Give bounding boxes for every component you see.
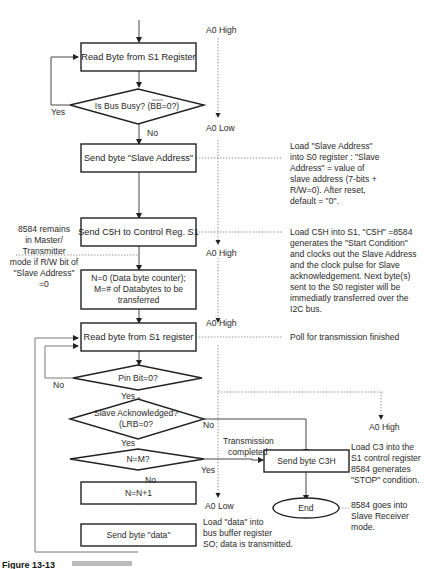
svg-text:Transmitter: Transmitter: [22, 246, 65, 256]
data-note: Load "data" into bus buffer register SO;…: [203, 517, 293, 549]
end-label: End: [298, 503, 314, 513]
branch-label-yes: Yes: [201, 465, 215, 475]
branch-label-no: No: [53, 380, 64, 390]
svg-text:in Master/: in Master/: [25, 235, 63, 245]
svg-text:sent to the S0 register will b: sent to the S0 register will be: [290, 282, 401, 292]
svg-text:Load "Slave Address": Load "Slave Address": [290, 141, 373, 151]
master-transmitter-note: 8584 remains in Master/ Transmitter mode…: [10, 224, 79, 289]
end-note: 8584 goes into Slave Receiver mode.: [351, 500, 409, 532]
decision-label: (LRB=0?: [119, 419, 153, 429]
n-eq-m-yes-line: [204, 459, 263, 460]
branch-label-no: No: [203, 420, 214, 430]
bus-busy-yes-loop: [51, 57, 78, 105]
pin-bit-no-loop: [45, 346, 78, 378]
a0-high-label: A0 High: [206, 248, 237, 258]
figure-caption: Figure 13-13: [2, 560, 55, 569]
n-equals-m-decision: N=M?: [70, 449, 204, 470]
a0-high-label: A0 High: [206, 25, 237, 35]
svg-text:slave address (7-bits +: slave address (7-bits +: [290, 174, 377, 184]
send-slave-address-box: Send byte "Slave Address": [81, 144, 196, 172]
caption-cropped-text: [72, 561, 132, 566]
slave-acknowledged-decision: Slave Acknowledged? (LRB=0?: [70, 399, 204, 439]
svg-text:and clocks out the Slave Addre: and clocks out the Slave Address: [290, 249, 417, 259]
svg-text:bus buffer register: bus buffer register: [203, 528, 272, 538]
svg-text:=0: =0: [39, 279, 49, 289]
svg-text:"Slave Address": "Slave Address": [13, 268, 74, 278]
svg-text:Load "data" into: Load "data" into: [203, 517, 264, 527]
box-label: Send byte "data": [107, 530, 171, 540]
svg-text:acknowledgement. Next byte(s): acknowledgement. Next byte(s): [290, 271, 411, 281]
data-loop-back: [35, 338, 78, 552]
read-s1-register-box-2: Read byte from S1 register: [81, 323, 196, 351]
svg-text:8584 goes into: 8584 goes into: [351, 500, 408, 510]
send-c5h-box: Send C5H to Control Reg. S1: [78, 218, 199, 246]
poll-note: Poll for transmission finished: [290, 332, 400, 342]
svg-text:Slave Receiver: Slave Receiver: [351, 511, 409, 521]
svg-text:Load C5H into S1, "C5H" =8584: Load C5H into S1, "C5H" =8584: [290, 227, 413, 237]
box-label: Send byte C3H: [277, 456, 335, 466]
pin-bit-decision: Pin Bit=0?: [73, 365, 202, 390]
branch-label-yes: Yes: [51, 107, 65, 117]
a0-low-label: A0 Low: [205, 501, 234, 511]
svg-text:8584 remains: 8584 remains: [18, 224, 70, 234]
box-label: Send C5H to Control Reg. S1: [78, 227, 199, 237]
transmission-label: Transmission: [223, 436, 274, 446]
svg-text:I2C bus.: I2C bus.: [290, 304, 322, 314]
bus-busy-decision: Is Bus Busy? (BB=0?): [70, 89, 204, 124]
svg-text:"STOP" condition.: "STOP" condition.: [351, 475, 420, 485]
branch-label-yes: Yes: [121, 438, 135, 448]
increment-n-box: N=N+1: [81, 482, 196, 504]
transmission-label: completed: [228, 447, 268, 457]
svg-text:R/W=0). After reset,: R/W=0). After reset,: [290, 185, 366, 195]
read-s1-register-box: Read Byte from S1 Register: [81, 43, 196, 71]
send-c3h-box: Send byte C3H: [264, 450, 349, 472]
svg-text:mode.: mode.: [351, 522, 375, 532]
branch-label-no: No: [145, 475, 156, 485]
svg-text:default = "0".: default = "0".: [290, 196, 339, 206]
flowchart-canvas: Read Byte from S1 Register Is Bus Busy? …: [0, 0, 432, 569]
decision-label: Pin Bit=0?: [118, 373, 158, 383]
svg-text:8584 generates: 8584 generates: [351, 464, 411, 474]
send-data-box: Send byte "data": [81, 524, 196, 546]
decision-label: N=M?: [126, 454, 149, 464]
svg-text:generates the "Start Condition: generates the "Start Condition": [290, 238, 408, 248]
box-label: M=# of Databytes to be: [94, 284, 183, 294]
box-label: transferred: [118, 295, 160, 305]
svg-text:SO; data is transmitted.: SO; data is transmitted.: [203, 539, 293, 549]
a0-high-label: A0 High: [206, 318, 237, 328]
box-label: Send byte "Slave Address": [84, 153, 193, 163]
a0-high-label: A0 High: [369, 422, 400, 432]
svg-text:immediatly transferred over th: immediatly transferred over the: [290, 293, 409, 303]
svg-text:mode if R/W bit of: mode if R/W bit of: [10, 257, 79, 267]
decision-label: Is Bus Busy? (BB=0?): [95, 101, 179, 111]
c5h-note: Load C5H into S1, "C5H" =8584 generates …: [290, 227, 417, 314]
branch-label-yes: Yes: [121, 391, 135, 401]
svg-text:Address" = value of: Address" = value of: [290, 163, 365, 173]
a0-low-label: A0 Low: [206, 123, 235, 133]
svg-text:into S0 register : "Slave: into S0 register : "Slave: [290, 152, 380, 162]
svg-text:and the clock pulse for Slave: and the clock pulse for Slave: [290, 260, 400, 270]
c3-note: Load C3 into the S1 control register 858…: [351, 442, 421, 485]
svg-text:S1 control register: S1 control register: [351, 453, 421, 463]
svg-text:Load C3 into the: Load C3 into the: [351, 442, 414, 452]
end-terminator: End: [273, 498, 339, 518]
box-label: N=N+1: [125, 488, 152, 498]
init-counter-box: N=0 (Data byte counter); M=# of Databyte…: [81, 270, 196, 309]
box-label: Read Byte from S1 Register: [81, 52, 195, 62]
decision-label: Slave Acknowledged?: [94, 408, 178, 418]
box-label: N=0 (Data byte counter);: [91, 273, 185, 283]
box-label: Read byte from S1 register: [84, 332, 194, 342]
branch-label-no: No: [147, 128, 158, 138]
slave-address-note: Load "Slave Address" into S0 register : …: [290, 141, 380, 206]
